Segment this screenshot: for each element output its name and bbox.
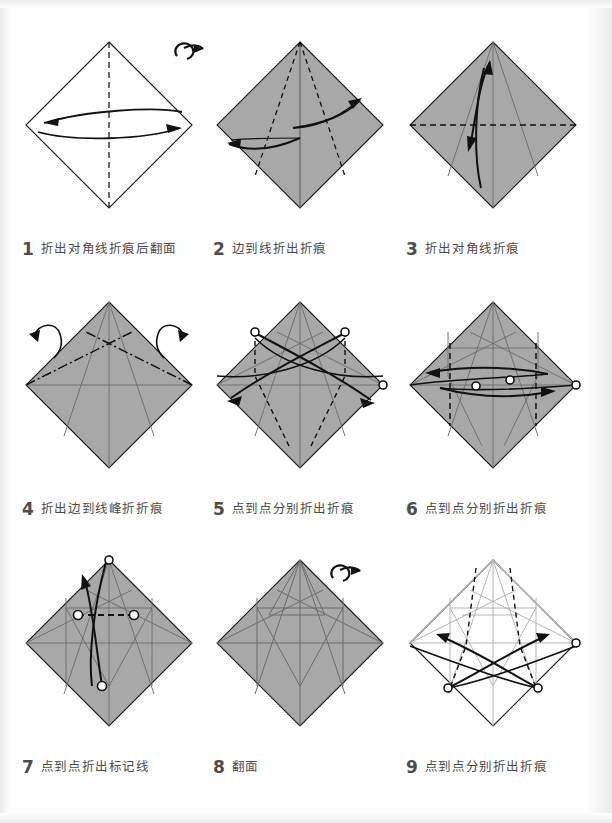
step-panel-5: 5 点到点分别折出折痕 bbox=[205, 288, 395, 546]
step-1-number: 1 bbox=[22, 241, 34, 258]
full-crease-pattern-9 bbox=[410, 560, 576, 726]
existing-creases-7 bbox=[26, 560, 192, 726]
turn-over-icon bbox=[175, 43, 203, 59]
step-7-figure bbox=[14, 546, 204, 751]
ref-point-upper-right bbox=[341, 328, 349, 336]
page-edge-top bbox=[0, 0, 612, 8]
steps-row-3: 7 点到点折出标记线 bbox=[8, 546, 604, 804]
step-9-caption: 9 点到点分别折出折痕 bbox=[398, 750, 588, 784]
step-7-caption: 7 点到点折出标记线 bbox=[14, 750, 204, 784]
step-2-caption: 2 边到线折出折痕 bbox=[205, 232, 395, 266]
turn-over-icon-8 bbox=[331, 565, 360, 581]
page-canvas: 1 折出对角线折痕后翻面 bbox=[0, 0, 612, 823]
step-panel-7: 7 点到点折出标记线 bbox=[14, 546, 204, 804]
step-panel-3: 3 折出对角线折痕 bbox=[398, 28, 588, 286]
step-8-caption: 8 翻面 bbox=[205, 750, 395, 784]
step-panel-6: 6 点到点分别折出折痕 bbox=[398, 288, 588, 546]
mountain-curl-arrow-left bbox=[34, 325, 61, 358]
step-3-text: 折出对角线折痕 bbox=[425, 243, 520, 256]
step-4-number: 4 bbox=[22, 501, 34, 518]
step-8-text: 翻面 bbox=[232, 761, 259, 774]
step-6-figure bbox=[398, 288, 588, 493]
ref-point-right-corner bbox=[379, 381, 387, 389]
step-1-figure bbox=[14, 28, 204, 233]
step-4-figure bbox=[14, 288, 204, 493]
page-edge-bottom bbox=[0, 813, 612, 823]
step-1-caption: 1 折出对角线折痕后翻面 bbox=[14, 232, 204, 266]
step-9-text: 点到点分别折出折痕 bbox=[425, 761, 547, 774]
ref-point-center-left bbox=[472, 382, 480, 390]
ref-point-right-corner-9 bbox=[572, 639, 580, 647]
step-6-text: 点到点分别折出折痕 bbox=[425, 503, 547, 516]
step-4-caption: 4 折出边到线峰折折痕 bbox=[14, 492, 204, 526]
step-panel-2: 2 边到线折出折痕 bbox=[205, 28, 395, 286]
step-9-figure bbox=[398, 546, 588, 751]
ref-point-inner-right bbox=[130, 611, 139, 620]
step-8-number: 8 bbox=[213, 759, 225, 776]
steps-grid: 1 折出对角线折痕后翻面 bbox=[8, 10, 604, 810]
existing-creases-4 bbox=[26, 302, 192, 468]
arrowhead-curl-left bbox=[29, 330, 40, 342]
step-5-figure bbox=[205, 288, 395, 493]
step-3-caption: 3 折出对角线折痕 bbox=[398, 232, 588, 266]
step-6-number: 6 bbox=[406, 501, 418, 518]
step-2-text: 边到线折出折痕 bbox=[232, 243, 327, 256]
ref-point-upper-left bbox=[251, 328, 259, 336]
step-6-caption: 6 点到点分别折出折痕 bbox=[398, 492, 588, 526]
step-8-figure bbox=[205, 546, 395, 751]
step-panel-1: 1 折出对角线折痕后翻面 bbox=[14, 28, 204, 286]
existing-creases-6 bbox=[410, 302, 576, 468]
mountain-curl-arrow-right bbox=[157, 325, 184, 358]
step-2-figure bbox=[205, 28, 395, 233]
step-5-text: 点到点分别折出折痕 bbox=[232, 503, 354, 516]
step-4-text: 折出边到线峰折折痕 bbox=[41, 503, 163, 516]
full-crease-pattern-8 bbox=[217, 560, 383, 726]
ref-point-lower-right bbox=[534, 684, 542, 692]
ref-point-right-corner-6 bbox=[572, 381, 580, 389]
arrowhead-curl-right bbox=[178, 330, 189, 342]
step-1-text: 折出对角线折痕后翻面 bbox=[41, 243, 177, 256]
step-2-number: 2 bbox=[213, 241, 225, 258]
steps-row-1: 1 折出对角线折痕后翻面 bbox=[8, 28, 604, 286]
step-3-number: 3 bbox=[406, 241, 418, 258]
step-3-figure bbox=[398, 28, 588, 233]
step-panel-8: 8 翻面 bbox=[205, 546, 395, 804]
ref-point-top-vertex bbox=[105, 556, 113, 564]
ref-point-lower-left bbox=[444, 684, 452, 692]
ref-point-center-right bbox=[506, 376, 514, 384]
steps-row-2: 4 折出边到线峰折折痕 bbox=[8, 288, 604, 546]
existing-creases-5 bbox=[217, 302, 383, 468]
step-7-text: 点到点折出标记线 bbox=[41, 761, 150, 774]
step-9-number: 9 bbox=[406, 759, 418, 776]
ref-point-center-bottom bbox=[98, 682, 107, 691]
step-5-number: 5 bbox=[213, 501, 225, 518]
step-5-caption: 5 点到点分别折出折痕 bbox=[205, 492, 395, 526]
step-panel-4: 4 折出边到线峰折折痕 bbox=[14, 288, 204, 546]
ref-point-inner-left bbox=[74, 611, 83, 620]
step-7-number: 7 bbox=[22, 759, 34, 776]
step-panel-9: 9 点到点分别折出折痕 bbox=[398, 546, 588, 804]
